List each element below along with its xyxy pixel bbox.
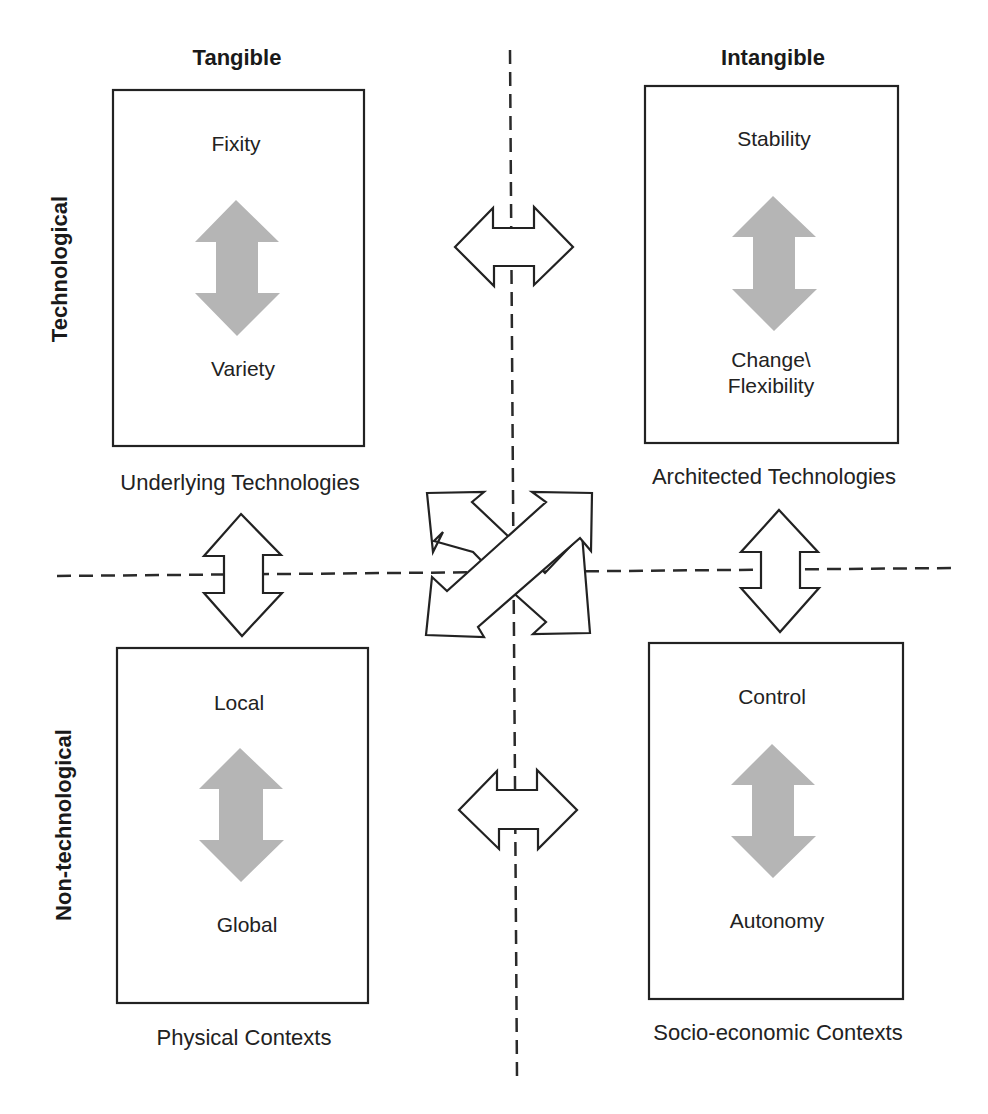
column-header-tangible: Tangible (193, 44, 282, 72)
caption-socio-economic-contexts: Socio-economic Contexts (653, 1019, 902, 1047)
gray-double-arrow-icon-top-left (195, 200, 280, 336)
row-header-non-technological: Non-technological (51, 729, 77, 921)
horizontal-double-arrow-icon-bottom (459, 770, 577, 849)
label-change-flexibility: Change\ Flexibility (728, 347, 814, 400)
label-local: Local (214, 690, 264, 716)
label-autonomy: Autonomy (730, 908, 825, 934)
row-header-technological: Technological (47, 196, 73, 342)
horizontal-double-arrow-icon-top (455, 207, 573, 286)
label-flexibility: Flexibility (728, 374, 814, 397)
label-variety: Variety (211, 356, 275, 382)
label-stability: Stability (737, 126, 811, 152)
crossed-diagonal-arrows-icon (426, 492, 592, 637)
caption-physical-contexts: Physical Contexts (157, 1024, 332, 1052)
label-control: Control (738, 684, 806, 710)
gray-double-arrow-icon-bottom-left (199, 748, 284, 882)
diagram-canvas (0, 0, 988, 1114)
gray-double-arrow-icon-top-right (732, 196, 817, 331)
label-change: Change\ (731, 348, 810, 371)
gray-double-arrow-icon-bottom-right (731, 744, 816, 878)
caption-underlying-technologies: Underlying Technologies (120, 469, 359, 497)
column-header-intangible: Intangible (721, 44, 825, 72)
label-fixity: Fixity (212, 131, 261, 157)
label-global: Global (217, 912, 278, 938)
caption-architected-technologies: Architected Technologies (652, 463, 896, 491)
